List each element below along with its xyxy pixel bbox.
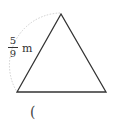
fraction-numerator: 5 <box>7 36 19 46</box>
side-length-unit: m <box>22 42 32 55</box>
answer-parenthesis: ( <box>30 104 35 120</box>
triangle-diagram <box>0 0 114 126</box>
side-length-fraction: 5 9 <box>7 36 19 59</box>
fraction-denominator: 9 <box>7 49 19 59</box>
